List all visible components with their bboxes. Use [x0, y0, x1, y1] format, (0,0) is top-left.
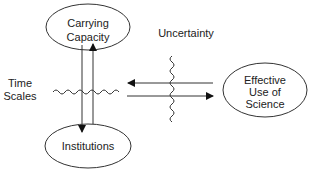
node-label: Capacity [67, 31, 110, 43]
node-effective-use-of-science: Effective Use of Science [223, 63, 307, 117]
node-carrying-capacity: Carrying Capacity [46, 4, 130, 50]
node-label: Science [245, 98, 284, 110]
node-label: Use of [249, 86, 282, 98]
uncertainty-label: Uncertainty [158, 27, 214, 39]
node-label: Institutions [62, 140, 115, 152]
node-label: Effective [244, 74, 286, 86]
uncertainty-wave [170, 56, 174, 122]
node-institutions: Institutions [45, 124, 131, 168]
diagram-canvas: Carrying Capacity Institutions Effective… [0, 0, 322, 171]
time-scales-label: Scales [3, 90, 37, 102]
node-label: Carrying [67, 17, 109, 29]
time-scales-wave [53, 90, 119, 94]
time-scales-label: Time [8, 77, 32, 89]
